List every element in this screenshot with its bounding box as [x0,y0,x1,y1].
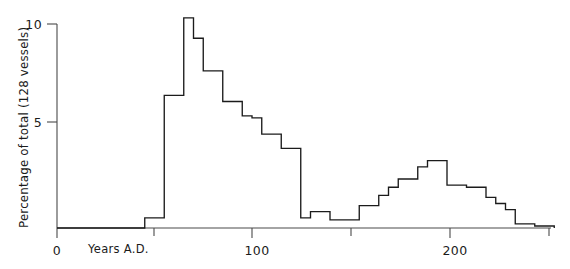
x-axis-ticks [57,228,549,238]
x-tick-label-100: 100 [244,243,269,258]
x-axis-title: Years A.D. [87,242,149,256]
histogram-figure: 10 5 0 100 200 Years A.D. Percentage of … [0,0,570,269]
x-tick-label-200: 200 [442,243,467,258]
x-tick-label-0: 0 [53,243,61,258]
y-axis-ticks [47,24,57,122]
histogram-step-line [57,18,554,228]
y-axis-title: Percentage of total (128 vessels) [17,27,31,228]
chart-svg: 10 5 0 100 200 Years A.D. Percentage of … [0,0,570,269]
y-tick-label-5: 5 [34,115,42,130]
